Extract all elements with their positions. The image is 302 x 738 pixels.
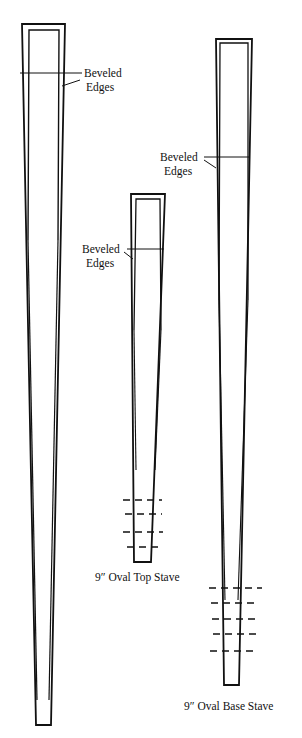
top-stave: Beveled Edges 9″ Oval Top Stave	[82, 194, 180, 584]
tall-stave-callout-line1: Beveled	[84, 67, 122, 79]
base-stave-cut-marks	[209, 588, 262, 651]
top-stave-bevel-top	[134, 199, 161, 330]
base-stave: Beveled Edges 9″ Oval Base Stave	[160, 39, 273, 712]
base-stave-callout-line2: Edges	[164, 165, 193, 178]
base-stave-caption: 9″ Oval Base Stave	[184, 700, 273, 712]
top-stave-bevel-right	[155, 330, 161, 470]
stave-diagram: Beveled Edges Beveled Edges 9″ Oval Top …	[0, 0, 302, 738]
top-stave-caption: 9″ Oval Top Stave	[95, 571, 180, 584]
base-stave-callout-line1: Beveled	[160, 151, 198, 163]
base-stave-bevel-right	[238, 300, 248, 600]
tall-stave: Beveled Edges	[20, 24, 122, 725]
tall-stave-callout-line2: Edges	[86, 81, 115, 94]
top-stave-bevel-left	[134, 330, 136, 470]
base-stave-bevel-top	[219, 43, 248, 300]
base-stave-leader	[204, 160, 216, 168]
tall-stave-bevel-top	[28, 30, 59, 240]
top-stave-callout-line1: Beveled	[82, 243, 120, 255]
tall-stave-bevel-left	[28, 240, 37, 700]
top-stave-cut-marks	[123, 500, 163, 547]
top-stave-callout-line2: Edges	[86, 257, 115, 270]
